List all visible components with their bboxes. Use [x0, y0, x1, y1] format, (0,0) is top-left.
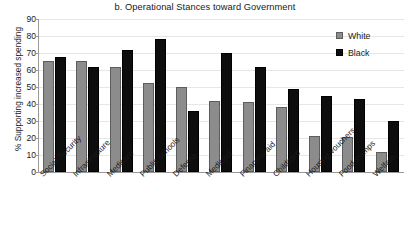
- bar-chart: b. Operational Stances toward Government…: [0, 0, 410, 250]
- bar-white: [110, 67, 121, 172]
- y-tick-label: 80: [0, 32, 36, 41]
- bar-group: [273, 19, 306, 172]
- legend-swatch-white: [336, 32, 343, 39]
- bar-group: [206, 19, 239, 172]
- x-axis-tick-labels: Social SecurityInfrastructureMedicarePub…: [38, 173, 410, 250]
- y-tick-label: 70: [0, 49, 36, 58]
- chart-title: b. Operational Stances toward Government: [0, 2, 410, 12]
- bar-group: [107, 19, 140, 172]
- y-tick-label: 0: [0, 168, 36, 177]
- legend-label: White: [348, 31, 371, 41]
- y-tick-label: 10: [0, 151, 36, 160]
- y-axis-line: [38, 19, 39, 173]
- y-tick-label: 60: [0, 66, 36, 75]
- y-tick-label: 40: [0, 100, 36, 109]
- y-tick-label: 90: [0, 15, 36, 24]
- legend-item-white: White: [336, 27, 408, 44]
- legend-swatch-black: [336, 49, 343, 56]
- legend-label: Black: [348, 48, 370, 58]
- legend-item-black: Black: [336, 44, 408, 61]
- legend: WhiteBlack: [336, 27, 408, 61]
- bar-group: [173, 19, 206, 172]
- y-tick-label: 50: [0, 83, 36, 92]
- bar-white: [76, 61, 87, 172]
- y-tick-label: 20: [0, 134, 36, 143]
- bar-white: [43, 61, 54, 172]
- y-tick-label: 30: [0, 117, 36, 126]
